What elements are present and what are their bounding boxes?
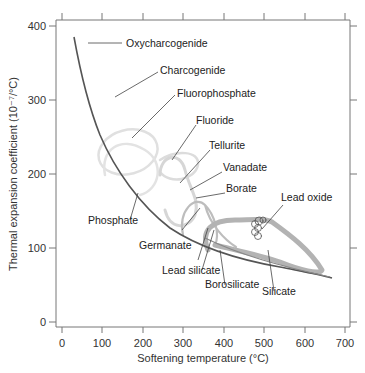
x-tick-label: 300: [174, 337, 192, 349]
x-tick-labels: 0 100 200 300 400 500 600 700: [59, 337, 354, 349]
y-axis-title: Thermal expansion coefficient (10⁻⁷/°C): [7, 77, 19, 271]
label-borosilicate: Borosilicate: [205, 278, 259, 290]
y-tick-label: 200: [28, 168, 46, 180]
label-vanadate: Vanadate: [223, 161, 267, 173]
x-axis-title: Softening temperature (°C): [137, 352, 269, 364]
x-ticks-bottom: [62, 327, 345, 333]
label-tellurite: Tellurite: [209, 139, 245, 151]
annotations: Oxycharcogenide Charcogenide Fluorophosp…: [88, 37, 333, 297]
y-tick-label: 300: [28, 94, 46, 106]
x-tick-label: 200: [134, 337, 152, 349]
y-tick-label: 100: [28, 242, 46, 254]
x-tick-label: 0: [59, 337, 65, 349]
y-ticks-left: [49, 26, 56, 322]
thermal-expansion-chart: 0 100 200 300 400 500 600 700 0 100 200 …: [0, 0, 365, 373]
x-tick-label: 100: [93, 337, 111, 349]
x-tick-label: 500: [255, 337, 273, 349]
x-tick-label: 700: [336, 337, 354, 349]
y-ticks-right: [350, 26, 357, 322]
tellurite-vanadate-region: [160, 157, 196, 225]
label-germanate: Germanate: [139, 239, 192, 251]
label-lead-oxide: Lead oxide: [281, 191, 333, 203]
label-lead-silicate: Lead silicate: [162, 264, 221, 276]
label-phosphate: Phosphate: [88, 214, 138, 226]
label-silicate: Silicate: [262, 285, 296, 297]
y-tick-labels: 0 100 200 300 400: [28, 20, 46, 328]
label-charcogenide: Charcogenide: [160, 64, 226, 76]
fluoride-region: [160, 153, 198, 179]
y-tick-label: 0: [40, 316, 46, 328]
x-ticks-top: [62, 13, 345, 20]
x-tick-label: 400: [215, 337, 233, 349]
y-tick-label: 400: [28, 20, 46, 32]
label-oxycharcogenide: Oxycharcogenide: [126, 37, 208, 49]
x-tick-label: 600: [296, 337, 314, 349]
label-borate: Borate: [226, 182, 257, 194]
label-fluoride: Fluoride: [196, 114, 234, 126]
label-fluorophosphate: Fluorophosphate: [177, 87, 256, 99]
